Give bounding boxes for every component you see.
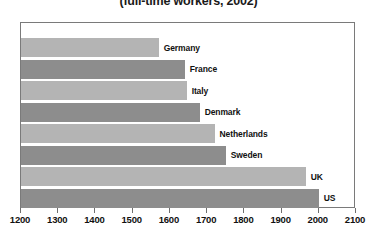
tick-mark-1900	[281, 208, 282, 213]
bar-label-denmark: Denmark	[205, 107, 241, 117]
x-axis-tick-labels: 1200130014001500160017001800190020002100	[0, 214, 377, 230]
tick-mark-1500	[132, 208, 133, 213]
plot-area: GermanyFranceItalyDenmarkNetherlandsSwed…	[20, 22, 355, 208]
tick-label-1800: 1800	[233, 214, 253, 225]
bar-germany[interactable]	[21, 38, 159, 57]
tick-mark-1600	[169, 208, 170, 213]
tick-mark-2100	[355, 208, 356, 213]
bar-row: Sweden	[21, 146, 356, 165]
tick-label-1600: 1600	[159, 214, 179, 225]
bar-denmark[interactable]	[21, 103, 200, 122]
tick-label-1700: 1700	[196, 214, 216, 225]
bar-label-netherlands: Netherlands	[220, 129, 268, 139]
bar-us[interactable]	[21, 189, 319, 208]
bar-label-france: France	[190, 64, 217, 74]
bar-label-italy: Italy	[192, 86, 209, 96]
bar-label-sweden: Sweden	[231, 150, 263, 160]
bar-sweden[interactable]	[21, 146, 226, 165]
tick-label-2100: 2100	[345, 214, 365, 225]
bar-row: Netherlands	[21, 124, 356, 143]
bar-italy[interactable]	[21, 81, 187, 100]
bar-row: Germany	[21, 38, 356, 57]
bar-row: Italy	[21, 81, 356, 100]
bar-netherlands[interactable]	[21, 124, 215, 143]
bar-france[interactable]	[21, 60, 185, 79]
tick-mark-1800	[243, 208, 244, 213]
bar-label-uk: UK	[311, 172, 323, 182]
tick-label-2000: 2000	[308, 214, 328, 225]
bar-label-us: US	[324, 193, 336, 203]
tick-label-1400: 1400	[84, 214, 104, 225]
tick-mark-1300	[57, 208, 58, 213]
tick-label-1500: 1500	[121, 214, 141, 225]
bar-row: France	[21, 60, 356, 79]
tick-mark-2000	[318, 208, 319, 213]
tick-label-1200: 1200	[10, 214, 30, 225]
bar-row: UK	[21, 167, 356, 186]
bars-layer: GermanyFranceItalyDenmarkNetherlandsSwed…	[21, 23, 354, 207]
tick-label-1900: 1900	[270, 214, 290, 225]
tick-mark-1700	[206, 208, 207, 213]
bar-uk[interactable]	[21, 167, 306, 186]
bar-label-germany: Germany	[164, 43, 200, 53]
tick-mark-1400	[94, 208, 95, 213]
chart-title: (full-time workers, 2002)	[0, 0, 377, 8]
tick-label-1300: 1300	[47, 214, 67, 225]
tick-mark-1200	[20, 208, 21, 213]
bar-row: US	[21, 189, 356, 208]
bar-row: Denmark	[21, 103, 356, 122]
